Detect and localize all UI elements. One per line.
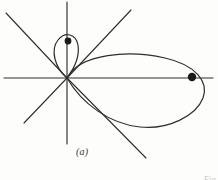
upper-left-ray [6, 13, 67, 78]
inner-maximum-point [65, 38, 72, 45]
polar-curve-plot [0, 0, 218, 180]
large-petal-curve [67, 54, 204, 127]
lower-left-ray [24, 78, 67, 123]
upper-right-ray [67, 10, 131, 78]
radial-lines-group [6, 10, 146, 158]
curves-group [54, 35, 204, 128]
corner-note-text: Fig [204, 175, 216, 180]
figure-container: (a) Fig [0, 0, 218, 180]
axis-group [4, 2, 213, 144]
figure-caption: (a) [76, 146, 88, 157]
outer-maximum-point [188, 73, 196, 81]
